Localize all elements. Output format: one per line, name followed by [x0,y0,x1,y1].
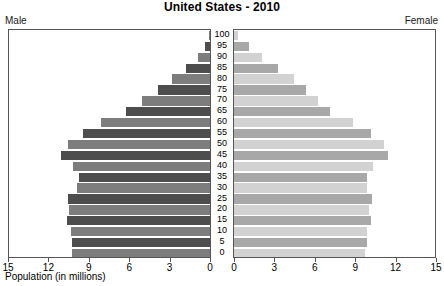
bar-female-age-10 [234,227,367,236]
x-tick-label-right-0: 0 [219,262,249,274]
male-side-label: Male [5,15,27,26]
bar-male-age-45 [61,151,210,160]
x-tick-label-right-9: 9 [340,262,370,274]
age-tick-80: 80 [211,73,233,84]
age-tick-20: 20 [211,203,233,214]
age-tick-95: 95 [211,40,233,51]
bar-male-age-0 [72,249,210,258]
bar-row [234,106,435,117]
bar-row [234,237,435,248]
bar-row [9,41,210,52]
bar-male-age-65 [126,107,210,116]
age-tick-10: 10 [211,225,233,236]
bar-male-age-25 [68,194,210,203]
chart-title: United States - 2010 [0,0,444,14]
bar-row [9,226,210,237]
age-tick-45: 45 [211,149,233,160]
bar-female-age-45 [234,151,388,160]
bar-row [9,139,210,150]
bar-male-age-50 [68,140,210,149]
bar-female-age-0 [234,249,365,258]
age-tick-15: 15 [211,214,233,225]
bar-row [9,183,210,194]
bar-row [234,74,435,85]
bar-row [234,52,435,63]
male-plot-panel [8,29,211,258]
bar-female-age-30 [234,183,367,192]
bar-row [9,161,210,172]
bar-male-age-5 [72,238,210,247]
bar-row [234,161,435,172]
bar-row [9,215,210,226]
bar-row [234,128,435,139]
bar-row [9,150,210,161]
x-tick-label-right-6: 6 [300,262,330,274]
bar-female-age-40 [234,162,373,171]
age-tick-100: 100 [211,29,233,40]
bar-female-age-15 [234,216,371,225]
population-pyramid-chart: United States - 2010 Male Female 1009590… [0,0,444,286]
bar-row [234,30,435,41]
bar-row [9,117,210,128]
bar-row [234,172,435,183]
bar-row [234,41,435,52]
bar-female-age-80 [234,74,294,83]
bar-male-age-80 [172,74,210,83]
bar-male-age-75 [158,85,210,94]
bar-row [9,237,210,248]
bar-row [9,74,210,85]
bar-male-age-15 [67,216,210,225]
bar-row [9,95,210,106]
bar-row [9,52,210,63]
bar-row [234,215,435,226]
x-tick-label-left-6: 6 [114,262,144,274]
bar-female-age-75 [234,85,306,94]
female-side-label: Female [405,15,438,26]
bar-row [234,117,435,128]
bar-row [9,128,210,139]
age-tick-30: 30 [211,182,233,193]
bar-row [234,183,435,194]
bar-row [234,204,435,215]
age-tick-40: 40 [211,160,233,171]
bar-row [234,248,435,258]
x-tick-label-right-12: 12 [381,262,411,274]
age-tick-50: 50 [211,138,233,149]
bar-female-age-50 [234,140,384,149]
x-tick-label-left-3: 3 [155,262,185,274]
bar-male-age-20 [69,205,210,214]
bar-female-age-85 [234,64,278,73]
bar-male-age-100 [209,31,210,40]
bar-female-age-90 [234,53,262,62]
bar-female-age-5 [234,238,367,247]
bar-female-age-95 [234,42,249,51]
bar-male-age-35 [79,173,210,182]
bar-female-age-20 [234,205,369,214]
bar-female-age-35 [234,173,367,182]
age-tick-35: 35 [211,171,233,182]
bar-row [9,85,210,96]
bar-female-age-70 [234,96,318,105]
x-axis: 1512963003691215 [0,258,444,270]
bar-female-age-60 [234,118,353,127]
x-tick-label-right-3: 3 [259,262,289,274]
bar-male-age-85 [186,64,210,73]
bar-female-age-65 [234,107,330,116]
bar-male-age-30 [77,183,210,192]
female-plot-panel [233,29,436,258]
bar-row [9,30,210,41]
age-tick-75: 75 [211,84,233,95]
bar-female-age-100 [234,31,238,40]
bar-female-age-25 [234,194,372,203]
bar-row [234,63,435,74]
bar-row [9,63,210,74]
age-axis: 1009590858075706560555045403530252015105… [211,29,233,258]
bar-male-age-10 [71,227,210,236]
bar-male-age-40 [73,162,210,171]
bar-row [9,172,210,183]
age-tick-5: 5 [211,236,233,247]
age-tick-25: 25 [211,193,233,204]
x-tick-label-right-15: 15 [421,262,444,274]
bar-row [9,194,210,205]
bar-row [234,226,435,237]
